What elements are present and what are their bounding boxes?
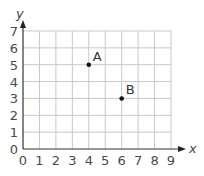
y-axis-label: y <box>15 6 24 21</box>
point-b-label: B <box>126 82 135 97</box>
y-tick-label: 6 <box>10 41 18 56</box>
x-tick-label: 1 <box>35 153 43 168</box>
y-axis-arrow-icon <box>20 20 26 28</box>
data-points: AB <box>86 49 134 101</box>
x-axis-arrow-icon <box>178 146 186 152</box>
x-tick-labels: 0123456789 <box>19 153 175 168</box>
point-a-marker <box>86 62 91 67</box>
x-tick-label: 2 <box>52 153 60 168</box>
x-tick-label: 6 <box>118 153 126 168</box>
coordinate-grid-chart: x y 0123456789 01234567 AB <box>0 0 204 176</box>
y-tick-labels: 01234567 <box>10 24 18 157</box>
y-tick-label: 3 <box>10 91 18 106</box>
x-tick-label: 8 <box>150 153 158 168</box>
y-tick-label: 4 <box>10 75 18 90</box>
y-tick-label: 5 <box>10 58 18 73</box>
x-tick-label: 9 <box>167 153 175 168</box>
point-b-marker <box>119 96 124 101</box>
y-tick-label: 2 <box>10 108 18 123</box>
x-tick-label: 5 <box>101 153 109 168</box>
y-tick-label: 7 <box>10 24 18 39</box>
x-tick-label: 3 <box>68 153 76 168</box>
x-tick-label: 0 <box>19 153 27 168</box>
point-a-label: A <box>93 49 102 64</box>
x-tick-label: 4 <box>85 153 93 168</box>
y-tick-label: 1 <box>10 125 18 140</box>
axes: x y <box>15 6 197 156</box>
y-tick-label: 0 <box>10 142 18 157</box>
x-tick-label: 7 <box>134 153 142 168</box>
x-axis-label: x <box>188 141 197 156</box>
